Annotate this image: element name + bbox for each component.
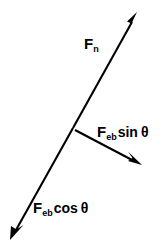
label-sin-component-angle: θ [138, 124, 149, 140]
label-sin-component-symbol: F [97, 123, 106, 140]
label-sin-component-trig: sin [117, 124, 138, 140]
label-cos-component-symbol: F [33, 199, 42, 216]
label-sin-component-subscript: eb [106, 132, 117, 142]
label-cos-component-subscript: eb [42, 208, 53, 218]
force-vector-diagram: Fn Febsinθ Febcosθ [0, 0, 164, 250]
normal-force-shaft [73, 22, 132, 128]
cos-component-vector [10, 128, 73, 240]
label-normal-force-subscript: n [93, 44, 99, 54]
label-sin-component: Febsinθ [97, 124, 149, 140]
normal-force-vector [73, 12, 137, 128]
label-cos-component-trig: cos [53, 200, 78, 216]
label-cos-component: Febcosθ [33, 200, 88, 216]
label-normal-force: Fn [84, 36, 99, 52]
label-normal-force-symbol: F [84, 35, 93, 52]
label-cos-component-angle: θ [78, 200, 89, 216]
